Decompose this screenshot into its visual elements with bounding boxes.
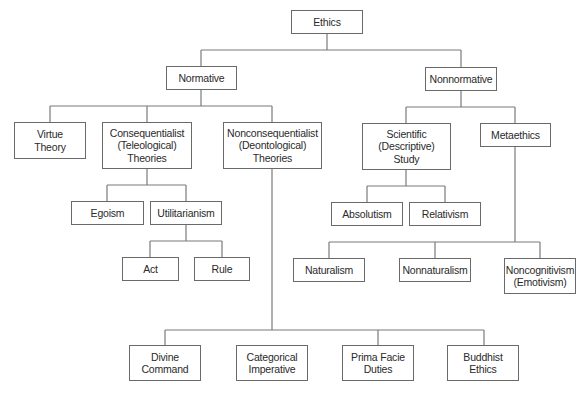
node-virtue-theory: Virtue Theory <box>14 122 86 159</box>
node-nonnormative: Nonnormative <box>425 67 497 91</box>
node-label: Prima Facie Duties <box>351 351 405 376</box>
node-consequentialist: Consequentialist (Teleological) Theories <box>102 122 192 169</box>
node-utilitarianism: Utilitarianism <box>150 201 222 225</box>
node-label: Egoism <box>91 207 125 220</box>
node-rule: Rule <box>194 257 250 281</box>
node-label: Relativism <box>422 208 468 221</box>
node-relativism: Relativism <box>409 202 481 226</box>
node-metaethics: Metaethics <box>480 123 551 147</box>
node-label: Nonconsequentialist (Deontological) Theo… <box>227 127 318 165</box>
node-normative: Normative <box>166 66 237 90</box>
node-ethics: Ethics <box>291 10 363 34</box>
node-scientific: Scientific (Descriptive) Study <box>362 123 451 170</box>
node-label: Metaethics <box>491 129 540 142</box>
node-label: Rule <box>212 263 233 276</box>
node-label: Nonnormative <box>430 73 493 86</box>
node-buddhist-ethics: Buddhist Ethics <box>447 345 519 381</box>
node-label: Scientific (Descriptive) Study <box>378 128 434 166</box>
node-naturalism: Naturalism <box>293 258 365 282</box>
node-label: Buddhist Ethics <box>463 351 502 376</box>
node-noncognitivism: Noncognitivism (Emotivism) <box>504 258 576 294</box>
node-label: Divine Command <box>141 351 188 376</box>
node-categorical-imperative: Categorical Imperative <box>236 345 308 381</box>
node-label: Virtue Theory <box>34 128 65 153</box>
node-label: Utilitarianism <box>157 207 214 220</box>
node-label: Consequentialist (Teleological) Theories <box>110 127 184 165</box>
node-divine-command: Divine Command <box>129 345 201 381</box>
node-label: Nonnaturalism <box>402 264 467 277</box>
node-prima-facie-duties: Prima Facie Duties <box>342 345 414 381</box>
node-absolutism: Absolutism <box>331 202 403 226</box>
node-nonnaturalism: Nonnaturalism <box>399 258 471 282</box>
node-label: Naturalism <box>305 264 353 277</box>
node-label: Categorical Imperative <box>247 351 298 376</box>
node-egoism: Egoism <box>71 201 144 225</box>
node-label: Absolutism <box>342 208 391 221</box>
node-label: Noncognitivism (Emotivism) <box>506 264 574 289</box>
node-label: Ethics <box>313 16 340 29</box>
node-label: Normative <box>178 72 224 85</box>
connector-lines <box>0 0 584 394</box>
node-nonconsequentialist: Nonconsequentialist (Deontological) Theo… <box>223 122 322 169</box>
node-label: Act <box>143 263 158 276</box>
node-act: Act <box>122 257 179 281</box>
ethics-tree-diagram: Ethics Normative Nonnormative Virtue The… <box>0 0 584 394</box>
